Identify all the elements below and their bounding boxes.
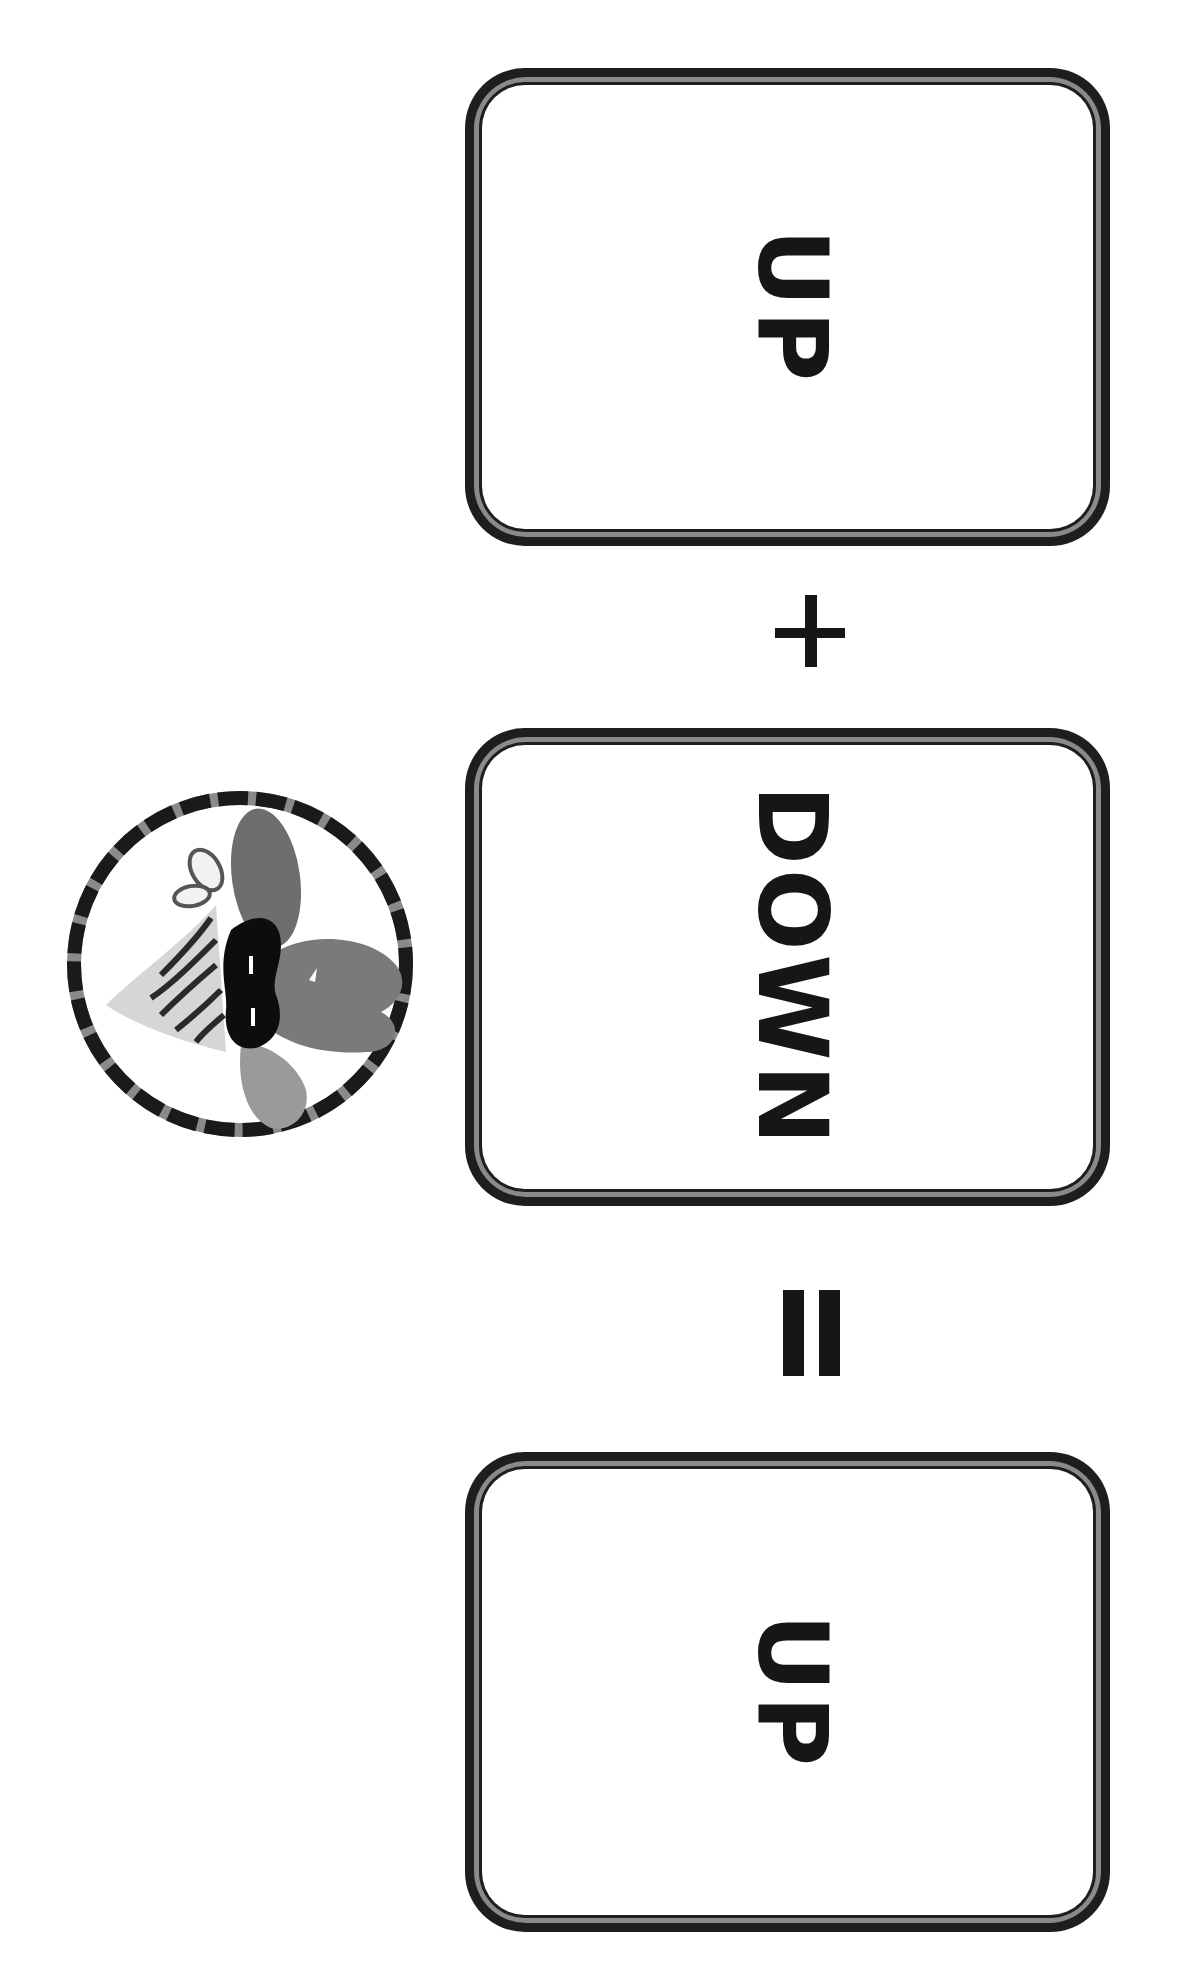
card-word-down: DOWN bbox=[744, 785, 840, 1149]
card-face: UP bbox=[482, 85, 1093, 529]
masked-character-icon bbox=[66, 790, 414, 1138]
card-face: DOWN bbox=[482, 745, 1093, 1189]
card-border-inner: UP bbox=[479, 82, 1096, 532]
plus-icon bbox=[775, 595, 847, 669]
equals-bar-2 bbox=[819, 1290, 840, 1376]
card-word-up: UP bbox=[744, 229, 840, 385]
card-face: UP bbox=[482, 1469, 1093, 1915]
equals-bar-1 bbox=[783, 1290, 804, 1376]
card-border-inner: DOWN bbox=[479, 742, 1096, 1192]
character-badge bbox=[66, 790, 414, 1138]
card-border-inner: UP bbox=[479, 1466, 1096, 1918]
plus-vertical-bar bbox=[805, 595, 817, 667]
result-card-up: UP bbox=[465, 1452, 1110, 1932]
term-card-up: UP bbox=[465, 68, 1110, 546]
card-word-result: UP bbox=[744, 1614, 840, 1770]
term-card-down: DOWN bbox=[465, 728, 1110, 1206]
card-border-ring: UP bbox=[474, 77, 1101, 537]
card-border-ring: UP bbox=[474, 1461, 1101, 1923]
card-border-ring: DOWN bbox=[474, 737, 1101, 1197]
equals-icon bbox=[783, 1290, 841, 1376]
